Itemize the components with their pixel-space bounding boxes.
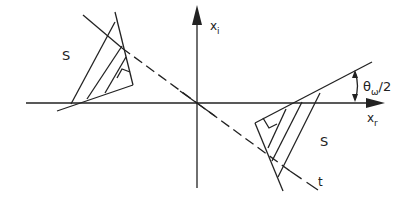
- angle-label: θω/2: [363, 79, 391, 97]
- left-wedge-lower-edge: [57, 85, 133, 111]
- line-t-dashed-lower: [197, 103, 290, 171]
- left-wedge-hatch-3: [105, 57, 126, 93]
- right-wedge-hatch-1: [278, 93, 320, 177]
- right-wedge-left-edge: [255, 123, 283, 191]
- line-t-solid-upper: [83, 15, 122, 48]
- left-wedge-right-edge: [115, 12, 133, 85]
- wedge-diagram: xi xr S S t θω/2: [0, 0, 409, 203]
- imaginary-axis-arrow-icon: [192, 5, 202, 25]
- right-wedge-upper-edge: [255, 62, 372, 123]
- right-right-angle-marker: [263, 118, 277, 128]
- imaginary-axis-label: xi: [210, 19, 220, 36]
- left-region-label: S: [62, 48, 70, 63]
- real-axis-label: xr: [367, 111, 378, 128]
- right-region-label: S: [320, 134, 328, 149]
- real-axis-arrow-icon: [366, 98, 385, 108]
- right-wedge-hatch-2: [272, 102, 302, 161]
- line-t-label: t: [318, 175, 323, 189]
- angle-arrow-bottom-icon: [352, 94, 358, 102]
- angle-arrow-top-icon: [352, 70, 358, 78]
- line-t-solid-lower: [290, 171, 318, 190]
- left-wedge-hatch-1: [71, 22, 115, 104]
